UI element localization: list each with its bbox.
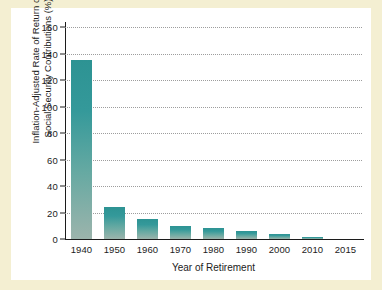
y-axis-tick-label: 40 [47,181,58,192]
bar-slot [263,27,296,239]
x-axis-tick-label: 2015 [329,244,362,255]
bar-slot [65,27,98,239]
bar-slot [230,27,263,239]
x-axis-tick-label: 1970 [164,244,197,255]
bar-series [65,27,362,239]
bar [71,60,92,239]
bar-slot [131,27,164,239]
bar-slot [98,27,131,239]
bar [269,234,290,239]
x-axis-tick-label: 2000 [263,244,296,255]
x-axis-spine [65,239,364,240]
bar [104,207,125,239]
bar [236,231,257,239]
x-axis-tick-label: 1960 [131,244,164,255]
bar [137,219,158,239]
x-axis-tick-label: 1990 [230,244,263,255]
plot-area: 020406080100120140160 [65,27,362,239]
y-axis-title: Inflation-Adjusted Rate of Return on Soc… [30,0,54,163]
y-axis-title-line-2: Social Security Contributions (%) [42,0,54,163]
figure-outer-frame: 020406080100120140160 194019501960197019… [0,0,382,290]
x-axis-tick-labels: 194019501960197019801990200020102015 [65,244,362,255]
x-axis-tick-label: 1940 [65,244,98,255]
y-axis-tick-label: 20 [47,207,58,218]
bar [203,228,224,239]
chart-card: 020406080100120140160 194019501960197019… [11,8,371,280]
x-axis-tick-label: 2010 [296,244,329,255]
bar [302,237,323,239]
bar-slot [197,27,230,239]
x-axis-tick-label: 1980 [197,244,230,255]
bar-slot [296,27,329,239]
y-axis-tick-label: 0 [53,234,58,245]
bar-slot [329,27,362,239]
y-axis-title-line-1: Inflation-Adjusted Rate of Return on [30,0,42,163]
bar-slot [164,27,197,239]
x-axis-tick-label: 1950 [98,244,131,255]
x-axis-title: Year of Retirement [65,262,362,273]
bar [170,226,191,239]
